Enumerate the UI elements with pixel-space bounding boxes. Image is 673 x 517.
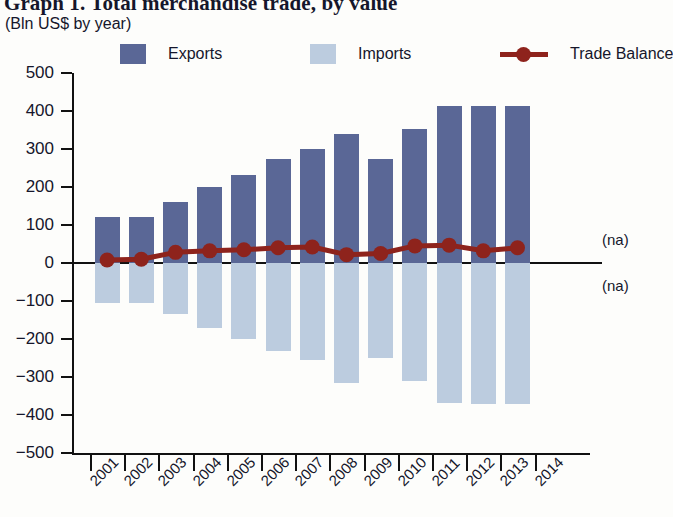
x-tick bbox=[466, 453, 468, 471]
y-tick bbox=[61, 110, 72, 112]
x-tick bbox=[535, 453, 537, 471]
trade-balance-point-2003 bbox=[168, 245, 183, 260]
legend-item-imports[interactable]: Imports bbox=[310, 42, 411, 66]
trade-balance-point-2011 bbox=[442, 238, 457, 253]
x-tick bbox=[398, 453, 400, 471]
x-tick bbox=[158, 453, 160, 471]
trade-balance-line bbox=[72, 73, 588, 453]
legend-line-marker-icon bbox=[500, 44, 548, 64]
x-tick bbox=[90, 453, 92, 471]
plot-area: 5004003002001000−100−200−300−400−500 bbox=[72, 73, 588, 453]
x-tick bbox=[295, 453, 297, 471]
y-tick-label: 300 bbox=[2, 140, 54, 157]
trade-balance-point-2013 bbox=[510, 240, 525, 255]
y-tick-label: 0 bbox=[2, 254, 54, 271]
legend-swatch-icon bbox=[120, 44, 146, 64]
y-tick-label: −300 bbox=[2, 368, 54, 385]
trade-balance-point-2009 bbox=[373, 246, 388, 261]
y-tick bbox=[61, 262, 72, 264]
legend-item-exports[interactable]: Exports bbox=[120, 42, 222, 66]
chart-subtitle: (Bln US$ by year) bbox=[5, 15, 131, 33]
y-tick-label: 100 bbox=[2, 216, 54, 233]
y-tick-label: −100 bbox=[2, 292, 54, 309]
y-tick bbox=[61, 186, 72, 188]
trade-balance-point-2008 bbox=[339, 247, 354, 262]
y-tick bbox=[61, 414, 72, 416]
x-tick bbox=[193, 453, 195, 471]
trade-balance-point-2007 bbox=[305, 240, 320, 255]
legend-label: Exports bbox=[168, 45, 222, 63]
trade-balance-point-2006 bbox=[271, 240, 286, 255]
legend-label: Trade Balance bbox=[570, 45, 673, 63]
y-tick-label: 500 bbox=[2, 64, 54, 81]
y-tick-label: −400 bbox=[2, 406, 54, 423]
y-tick-label: 200 bbox=[2, 178, 54, 195]
x-tick bbox=[329, 453, 331, 471]
x-tick bbox=[364, 453, 366, 471]
na-label-above: (na) bbox=[602, 231, 629, 248]
y-tick bbox=[61, 452, 72, 454]
y-tick-label: −200 bbox=[2, 330, 54, 347]
trade-balance-point-2004 bbox=[202, 243, 217, 258]
y-tick bbox=[61, 148, 72, 150]
y-tick bbox=[61, 300, 72, 302]
trade-balance-point-2012 bbox=[476, 243, 491, 258]
x-tick bbox=[500, 453, 502, 471]
x-tick bbox=[261, 453, 263, 471]
y-tick-label: 400 bbox=[2, 102, 54, 119]
y-tick-label: −500 bbox=[2, 444, 54, 461]
na-label-below: (na) bbox=[602, 277, 629, 294]
x-tick bbox=[124, 453, 126, 471]
y-tick bbox=[61, 72, 72, 74]
y-tick bbox=[61, 338, 72, 340]
x-tick bbox=[432, 453, 434, 471]
legend-label: Imports bbox=[358, 45, 411, 63]
trade-balance-point-2002 bbox=[134, 252, 149, 267]
trade-balance-point-2005 bbox=[236, 242, 251, 257]
legend-item-trade-balance[interactable]: Trade Balance bbox=[500, 42, 673, 66]
legend-swatch-icon bbox=[310, 44, 336, 64]
page-title: Graph 1. Total merchandise trade, by val… bbox=[4, 0, 398, 16]
x-tick bbox=[227, 453, 229, 471]
x-axis: 2001200220032004200520062007200820092010… bbox=[72, 453, 590, 517]
trade-balance-point-2010 bbox=[407, 238, 422, 253]
y-tick bbox=[61, 376, 72, 378]
y-tick bbox=[61, 224, 72, 226]
trade-balance-point-2001 bbox=[100, 252, 115, 267]
